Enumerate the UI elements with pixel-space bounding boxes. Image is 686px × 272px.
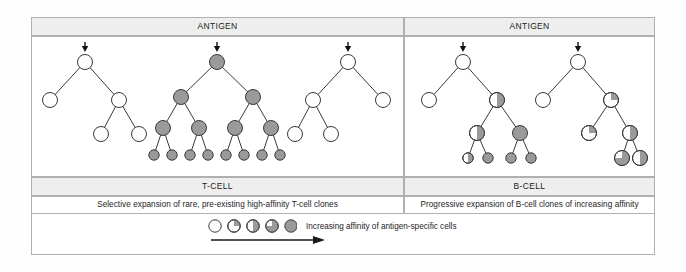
description-band-b-cell: Progressive expansion of B-cell clones o… bbox=[404, 196, 655, 214]
description-band-t-cell: Selective expansion of rare, pre-existin… bbox=[31, 196, 404, 214]
antigen-header-t-cell-label: ANTIGEN bbox=[197, 22, 237, 31]
antigen-header-b-cell-label: ANTIGEN bbox=[509, 22, 549, 31]
legend-label: Increasing affinity of antigen-specific … bbox=[306, 222, 457, 231]
diagram-area-b-cell bbox=[404, 36, 655, 177]
cell-type-band-b-cell: B-CELL bbox=[404, 177, 655, 196]
affinity-arrow-icon bbox=[209, 234, 329, 246]
legend-swatch-row: Increasing affinity of antigen-specific … bbox=[207, 218, 457, 234]
legend-affinity-25 bbox=[228, 220, 240, 232]
legend-affinity-100 bbox=[285, 220, 297, 232]
antigen-header-b-cell: ANTIGEN bbox=[404, 17, 655, 36]
diagram-area-t-cell bbox=[31, 36, 404, 177]
legend-swatches bbox=[207, 218, 297, 234]
cell-type-label-b-cell: B-CELL bbox=[514, 182, 546, 191]
description-text-t-cell: Selective expansion of rare, pre-existin… bbox=[97, 201, 338, 209]
antigen-header-t-cell: ANTIGEN bbox=[31, 17, 404, 36]
legend-affinity-0 bbox=[209, 220, 221, 232]
immunology-figure: ANTIGEN ANTIGEN T-CELL B-CELL Selective … bbox=[0, 0, 686, 272]
cell-type-band-t-cell: T-CELL bbox=[31, 177, 404, 196]
cell-type-label-t-cell: T-CELL bbox=[202, 182, 233, 191]
legend-affinity-50 bbox=[247, 220, 259, 232]
legend-affinity-75 bbox=[266, 220, 278, 232]
description-text-b-cell: Progressive expansion of B-cell clones o… bbox=[420, 201, 638, 209]
legend-strip: Increasing affinity of antigen-specific … bbox=[31, 214, 655, 255]
